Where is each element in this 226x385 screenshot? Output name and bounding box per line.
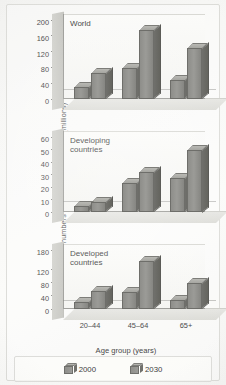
chart-panel-world: 04080120160200World [26, 14, 216, 122]
bar-2030-20–44 [91, 73, 106, 99]
y-tick-label: 120 [37, 268, 52, 277]
panel-title: Developing countries [70, 136, 110, 155]
bar-2000-20–44 [74, 302, 89, 309]
y-axis-line [63, 14, 64, 99]
y-tick: 0 [45, 90, 52, 108]
plot-floor [63, 308, 226, 320]
bar-2000-65+ [170, 178, 185, 212]
bar-2000-45–64 [122, 68, 137, 99]
y-tick-label: 180 [37, 248, 52, 257]
y-axis-ticks: 04080120180 [26, 244, 52, 332]
bar-2000-45–64 [122, 292, 137, 309]
diabetes-bar-chart-figure: Estimated numbers of people with diabete… [0, 0, 226, 385]
legend-item-2000: 2000 [64, 365, 96, 374]
y-axis-line [63, 131, 64, 212]
bar-2030-65+ [187, 48, 202, 99]
y-tick: 40 [41, 74, 52, 92]
legend-swatch-icon [130, 365, 140, 374]
legend-label: 2030 [145, 365, 162, 374]
x-axis-title: Age group (years) [26, 346, 226, 355]
y-tick-label: 200 [37, 18, 52, 27]
y-axis-ticks: 0102030405060 [26, 131, 52, 235]
bar-2030-20–44 [91, 202, 106, 212]
plot-floor [63, 98, 226, 110]
bar-2000-65+ [170, 80, 185, 99]
bar-2030-65+ [187, 283, 202, 309]
plot-area: Developed countries [52, 244, 216, 320]
chart-panel-developed: 04080120180Developed countries20–4445–64… [26, 244, 216, 332]
bar-2030-45–64 [139, 172, 154, 212]
x-axis-ticks: 20–4445–6465+ [52, 321, 216, 333]
y-tick: 200 [37, 11, 52, 29]
bar-2000-65+ [170, 300, 185, 309]
y-tick: 80 [41, 58, 52, 76]
plot-area: World [52, 14, 216, 110]
bar-2030-45–64 [139, 30, 154, 99]
y-tick: 60 [41, 128, 52, 146]
legend-swatch-icon [64, 365, 74, 374]
legend-item-2030: 2030 [130, 365, 162, 374]
x-tick-label: 65+ [180, 321, 193, 330]
bar-2000-20–44 [74, 206, 89, 212]
panel-title: World [70, 19, 91, 28]
y-tick: 120 [37, 261, 52, 279]
bar-2030-65+ [187, 150, 202, 213]
y-tick: 180 [37, 241, 52, 259]
bar-2000-45–64 [122, 183, 137, 212]
x-tick-label: 20–44 [80, 321, 101, 330]
y-tick: 160 [37, 27, 52, 45]
y-axis-ticks: 04080120160200 [26, 14, 52, 122]
plot-area: Developing countries [52, 131, 216, 223]
y-tick-label: 160 [37, 34, 52, 43]
y-tick: 120 [37, 43, 52, 61]
panel-title: Developed countries [70, 249, 108, 268]
bar-2030-20–44 [91, 291, 106, 309]
bar-2000-20–44 [74, 87, 89, 99]
chart-panel-developing: 0102030405060Developing countries [26, 131, 216, 235]
chart-legend: 2000 2030 [14, 356, 212, 382]
bar-2030-45–64 [139, 261, 154, 309]
legend-label: 2000 [79, 365, 96, 374]
x-tick-label: 45–64 [128, 321, 149, 330]
y-tick-label: 120 [37, 50, 52, 59]
